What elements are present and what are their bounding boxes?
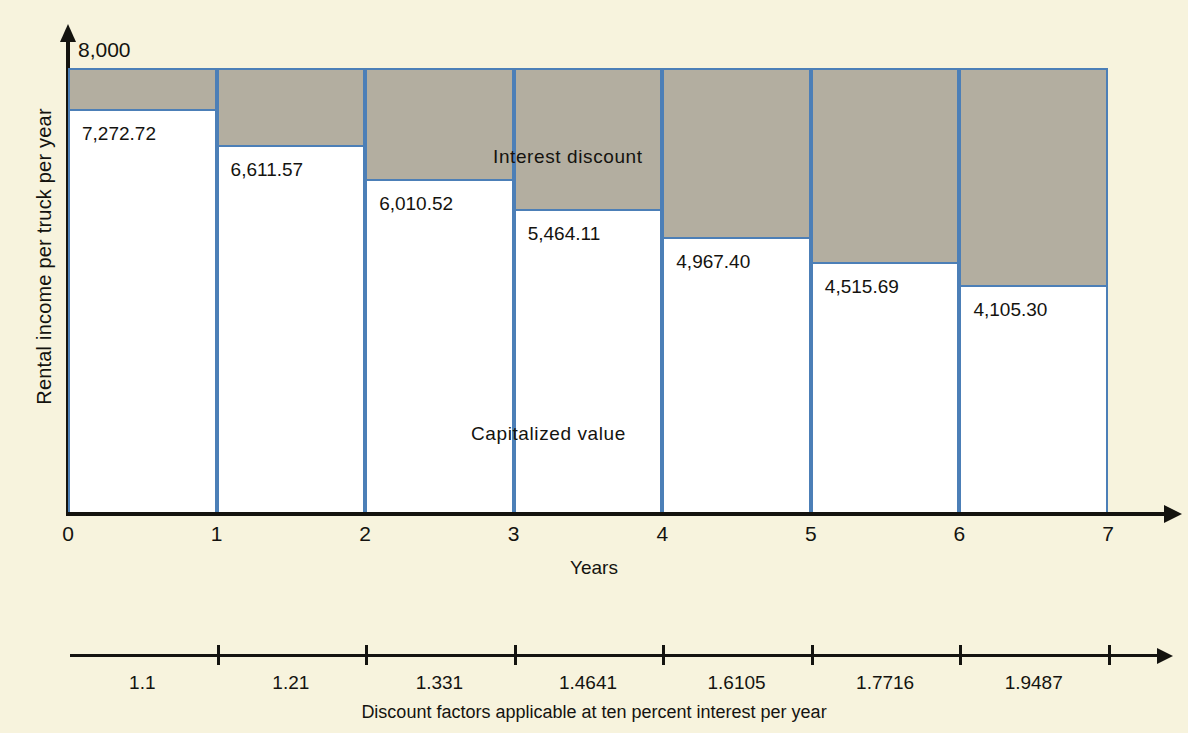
discount-factor-label-4: 1.4641: [514, 672, 662, 694]
bar-value-label-2: 6,611.57: [231, 159, 304, 181]
bar-segment-capitalized-value: [514, 209, 663, 514]
bar-year-7: 4,105.30: [959, 68, 1108, 514]
bar-segment-capitalized-value: [811, 262, 960, 514]
bar-year-2: 6,611.57: [217, 68, 366, 514]
chart-figure: Rental income per truck per year 8,000 7…: [0, 0, 1188, 733]
bar-value-label-6: 4,515.69: [825, 276, 899, 298]
discount-factor-tick-4: [662, 645, 665, 665]
discount-factor-label-3: 1.331: [365, 672, 513, 694]
x-tick-label-3: 3: [494, 522, 534, 546]
bar-segment-capitalized-value: [662, 237, 811, 514]
x-tick-label-6: 6: [939, 522, 979, 546]
bar-year-1: 7,272.72: [68, 68, 217, 514]
x-tick-label-2: 2: [345, 522, 385, 546]
discount-factor-axis-arrow-icon: [1157, 648, 1173, 664]
bar-value-label-3: 6,010.52: [379, 193, 453, 215]
x-axis-title: Years: [0, 557, 1188, 579]
annotation-interest-discount: Interest discount: [493, 146, 643, 168]
bar-segment-capitalized-value: [68, 109, 217, 514]
discount-factor-axis-line: [70, 654, 1160, 657]
bar-year-5: 4,967.40: [662, 68, 811, 514]
discount-factor-tick-3: [514, 645, 517, 665]
x-tick-label-4: 4: [642, 522, 682, 546]
x-tick-label-5: 5: [791, 522, 831, 546]
plot-area: 7,272.726,611.576,010.525,464.114,967.40…: [68, 68, 1108, 514]
bar-value-label-1: 7,272.72: [82, 123, 156, 145]
discount-factor-tick-6: [959, 645, 962, 665]
x-axis-line: [66, 512, 1166, 516]
discount-factor-tick-5: [811, 645, 814, 665]
x-tick-label-1: 1: [197, 522, 237, 546]
bar-value-label-5: 4,967.40: [676, 251, 750, 273]
bar-value-label-7: 4,105.30: [973, 299, 1047, 321]
bar-value-label-4: 5,464.11: [528, 223, 601, 245]
bar-segment-capitalized-value: [365, 179, 514, 514]
x-axis-arrow-icon: [1164, 505, 1182, 523]
y-axis-title: Rental income per truck per year: [33, 17, 56, 497]
discount-factor-label-6: 1.7716: [811, 672, 959, 694]
x-tick-label-0: 0: [48, 522, 88, 546]
discount-factor-tick-2: [365, 645, 368, 665]
discount-factor-tick-1: [217, 645, 220, 665]
discount-factor-label-7: 1.9487: [960, 672, 1108, 694]
discount-factor-caption: Discount factors applicable at ten perce…: [0, 702, 1188, 723]
bar-year-6: 4,515.69: [811, 68, 960, 514]
bar-segment-capitalized-value: [217, 145, 366, 514]
bar-year-4: 5,464.11: [514, 68, 663, 514]
discount-factor-label-2: 1.21: [217, 672, 365, 694]
x-tick-label-7: 7: [1088, 522, 1128, 546]
bar-year-3: 6,010.52: [365, 68, 514, 514]
discount-factor-label-5: 1.6105: [663, 672, 811, 694]
discount-factor-tick-7: [1108, 645, 1111, 665]
annotation-capitalized-value: Capitalized value: [471, 423, 626, 445]
y-axis-max-label: 8,000: [78, 38, 131, 62]
discount-factor-label-1: 1.1: [68, 672, 216, 694]
